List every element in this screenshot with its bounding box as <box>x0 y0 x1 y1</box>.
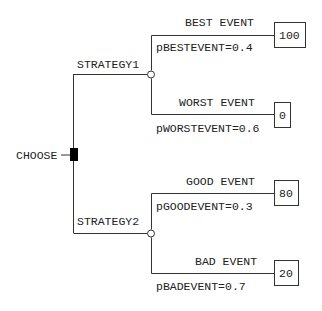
strategy-branch-2: STRATEGY2 GOOD EVENT pGOODEVENT=0.3 80 B… <box>74 175 299 293</box>
event-bad-probability: pBADEVENT=0.7 <box>156 280 246 293</box>
event-best-probability: pBESTEVENT=0.4 <box>156 41 253 54</box>
chance-node-2-circle-icon[interactable] <box>148 230 155 237</box>
event-worst-label: WORST EVENT <box>179 96 255 109</box>
decision-node-label: CHOOSE <box>16 149 58 162</box>
strategy-2-label: STRATEGY2 <box>77 215 139 228</box>
decision-tree: CHOOSE STRATEGY1 BEST EVENT pBESTEVENT=0… <box>0 0 322 311</box>
chance-node-1-circle-icon[interactable] <box>148 71 155 78</box>
decision-node-square-icon[interactable] <box>70 148 78 161</box>
event-bad-label: BAD EVENT <box>195 255 257 268</box>
payoff-good-value: 80 <box>279 187 293 200</box>
event-best-label: BEST EVENT <box>185 16 254 29</box>
strategy-branch-1: STRATEGY1 BEST EVENT pBESTEVENT=0.4 100 … <box>74 16 306 135</box>
payoff-best-value: 100 <box>279 29 300 42</box>
event-good-label: GOOD EVENT <box>186 175 255 188</box>
strategy-1-label: STRATEGY1 <box>77 58 139 71</box>
event-good-probability: pGOODEVENT=0.3 <box>156 200 253 213</box>
event-worst-probability: pWORSTEVENT=0.6 <box>156 122 260 135</box>
payoff-worst-value: 0 <box>279 109 286 122</box>
payoff-bad-value: 20 <box>279 267 293 280</box>
